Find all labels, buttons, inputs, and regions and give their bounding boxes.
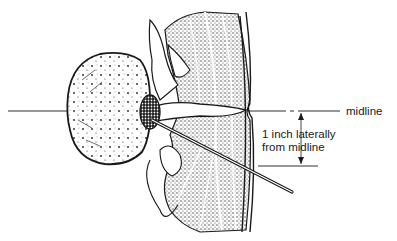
midline-label: midline [346, 105, 382, 118]
lateral-label-line-2: from midline [262, 141, 336, 154]
arrow-down-icon [298, 157, 304, 164]
lateral-label-line-1: 1 inch laterally [262, 128, 336, 141]
paraspinal-muscles [164, 12, 250, 232]
spine-cross-section-illustration [0, 0, 397, 241]
arrow-up-icon [298, 113, 304, 120]
vertebral-body [67, 53, 150, 164]
lateral-distance-label: 1 inch laterally from midline [262, 128, 336, 154]
